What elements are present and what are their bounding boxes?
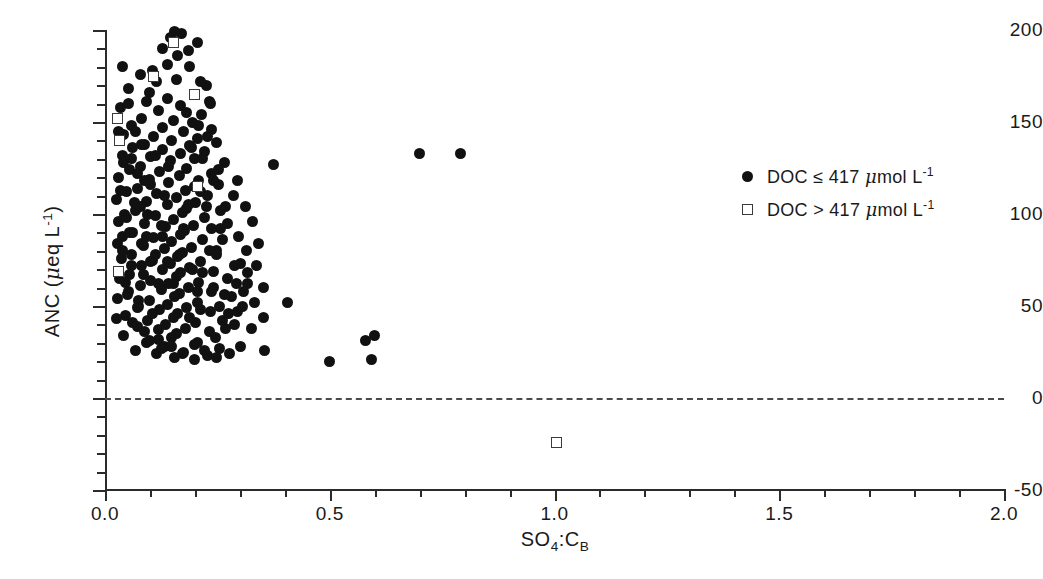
data-point (199, 345, 210, 356)
y-tick-minor (97, 177, 105, 179)
x-tick-label: 1.5 (765, 503, 793, 525)
x-tick-label: 2.0 (990, 503, 1018, 525)
data-point (195, 304, 206, 315)
data-point (189, 89, 200, 100)
x-axis-title-sub-4: 4 (551, 539, 559, 554)
data-point (144, 335, 155, 346)
data-point (208, 266, 219, 277)
data-point (130, 126, 141, 137)
y-tick-minor (97, 472, 105, 474)
y-tick-minor (97, 48, 105, 50)
data-point (168, 37, 179, 48)
data-point (117, 245, 128, 256)
data-point (197, 153, 208, 164)
data-point (233, 231, 244, 242)
y-tick-major (93, 122, 105, 124)
data-point (240, 201, 251, 212)
data-point (166, 135, 177, 146)
legend: DOC ≤ 417 μmol L-1 DOC > 417 μmol L-1 (736, 160, 935, 226)
data-point (148, 131, 159, 142)
data-point (253, 238, 264, 249)
y-tick-minor (97, 435, 105, 437)
data-point (163, 177, 174, 188)
data-point (187, 264, 198, 275)
y-tick-minor (97, 361, 105, 363)
data-point (223, 308, 234, 319)
y-axis-title-suffix: ) (41, 206, 63, 213)
data-point (174, 249, 185, 260)
data-point (159, 190, 170, 201)
x-tick-minor (959, 489, 961, 497)
data-point (268, 159, 279, 170)
data-point (360, 335, 371, 346)
data-point (157, 122, 168, 133)
x-tick-minor (195, 489, 197, 497)
data-point (258, 312, 269, 323)
data-point (184, 61, 195, 72)
x-tick-minor (510, 489, 512, 497)
data-point (183, 45, 194, 56)
data-point (455, 148, 466, 159)
x-tick-minor (599, 489, 601, 497)
y-tick-minor (97, 232, 105, 234)
data-point (178, 126, 189, 137)
data-point (147, 308, 158, 319)
data-point (156, 220, 167, 231)
legend-item-doc-low: DOC ≤ 417 μmol L-1 (736, 160, 935, 193)
y-tick-major (93, 398, 105, 400)
data-point (324, 356, 335, 367)
data-point (201, 201, 212, 212)
x-tick-minor (420, 489, 422, 497)
legend-item-doc-high: DOC > 417 μmol L-1 (736, 193, 935, 226)
x-tick-major (779, 489, 781, 501)
data-point (246, 323, 257, 334)
data-point (241, 245, 252, 256)
data-point (235, 341, 246, 352)
y-tick-minor (97, 104, 105, 106)
data-point (113, 172, 124, 183)
x-tick-minor (375, 489, 377, 497)
x-tick-minor (689, 489, 691, 497)
data-point (222, 218, 233, 229)
x-tick-minor (240, 489, 242, 497)
x-tick-label: 1.0 (541, 503, 569, 525)
legend-open-square-icon (736, 204, 758, 215)
y-tick-minor (97, 159, 105, 161)
data-point (192, 286, 203, 297)
data-point (112, 113, 123, 124)
data-point (251, 260, 262, 271)
data-point (192, 37, 203, 48)
data-point (192, 181, 203, 192)
data-point (197, 267, 208, 278)
x-tick-minor (734, 489, 736, 497)
data-point (163, 161, 174, 172)
data-point (138, 269, 149, 280)
data-point (229, 319, 240, 330)
data-point (217, 234, 228, 245)
plot-area (105, 30, 1004, 490)
data-point (282, 297, 293, 308)
data-point (141, 96, 152, 107)
y-tick-minor (97, 67, 105, 69)
y-tick-minor (97, 343, 105, 345)
data-point (135, 280, 146, 291)
data-point (121, 212, 132, 223)
data-point (162, 59, 173, 70)
data-point (162, 256, 173, 267)
y-axis-title-exponent: -1 (40, 213, 55, 226)
data-point (117, 61, 128, 72)
data-point (232, 175, 243, 186)
y-tick-minor (97, 85, 105, 87)
y-axis-title-mu: μ (40, 267, 64, 281)
x-axis-title-sub-b: B (580, 539, 590, 554)
legend-label-doc-high: DOC > 417 μmol L-1 (767, 198, 935, 221)
data-point (132, 302, 143, 313)
zero-reference-line (105, 398, 1004, 400)
data-point (189, 354, 200, 365)
data-point (171, 74, 182, 85)
x-tick-major (330, 489, 332, 501)
data-point (118, 330, 129, 341)
data-point (229, 260, 240, 271)
data-point (144, 295, 155, 306)
data-point (237, 301, 248, 312)
